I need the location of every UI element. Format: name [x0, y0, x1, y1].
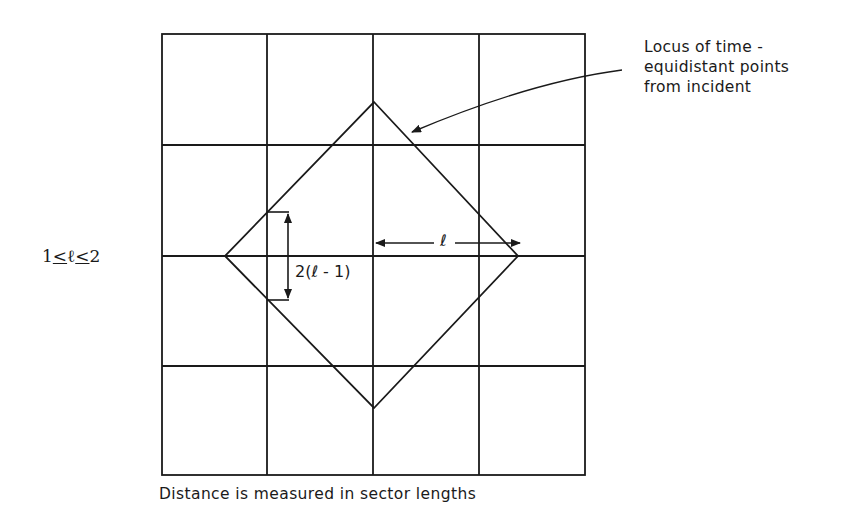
annotation-line-1: Locus of time - — [644, 37, 789, 57]
le-symbol-1: < — [53, 246, 67, 266]
annotation-pointer-arrow — [412, 70, 622, 132]
locus-diamond — [225, 102, 518, 408]
condition-lower-bound: 1 — [42, 246, 53, 266]
radius-label: ℓ — [438, 231, 449, 250]
locus-annotation: Locus of time - equidistant points from … — [644, 37, 789, 97]
bracket-label: 2(ℓ - 1) — [295, 262, 350, 281]
range-condition: 1<ℓ<2 — [42, 246, 100, 267]
annotation-line-2: equidistant points — [644, 57, 789, 77]
condition-upper-bound: 2 — [89, 246, 100, 266]
condition-variable: ℓ — [67, 246, 75, 266]
figure-caption: Distance is measured in sector lengths — [159, 485, 476, 503]
annotation-line-3: from incident — [644, 77, 789, 97]
le-symbol-2: < — [75, 246, 89, 266]
